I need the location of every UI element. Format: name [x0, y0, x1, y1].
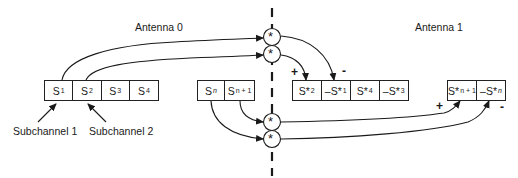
combiner-icon: * [268, 46, 273, 61]
subchannel1-pointer [38, 104, 56, 122]
combiner-icon: * [268, 131, 273, 146]
symbol-cell: S4 [130, 81, 158, 100]
symbol-cell: S2 [73, 81, 101, 100]
antenna1-label: Antenna 1 [415, 21, 463, 33]
arrow-s2-to-combiner [86, 55, 263, 80]
symbol-cell: S*2 [293, 81, 322, 100]
symbol-cell: –S*n [477, 81, 505, 100]
symbol-cell: –S*1 [322, 81, 351, 100]
combiner-icon: * [268, 29, 273, 44]
subchannel1-label: Subchannel 1 [13, 125, 77, 137]
combiner-icon: * [268, 114, 273, 129]
antenna1-block-sn: S*n + 1 –S*n [447, 80, 506, 101]
symbol-cell: S1 [45, 81, 73, 100]
minus-sign: - [500, 100, 504, 114]
arrow-combiner-to-neg-sn [281, 101, 489, 139]
arrow-combiner-to-sn1conj [281, 101, 460, 122]
antenna0-block-s1-s4: S1 S2 S3 S4 [44, 80, 159, 101]
minus-sign: - [342, 64, 346, 78]
plus-sign: + [436, 99, 443, 113]
symbol-cell: –S*3 [380, 81, 408, 100]
symbol-cell: Sn [198, 81, 225, 100]
antenna0-label: Antenna 0 [135, 21, 183, 33]
symbol-cell: S3 [102, 81, 130, 100]
subchannel2-label: Subchannel 2 [89, 125, 153, 137]
antenna1-block-s1-s4: S*2 –S*1 S*4 –S*3 [292, 80, 409, 101]
arrow-combiner-to-neg-s1 [281, 36, 334, 80]
subchannel2-pointer [88, 104, 106, 122]
symbol-cell: S*4 [351, 81, 380, 100]
symbol-cell: Sn + 1 [225, 81, 254, 100]
plus-sign: + [291, 65, 298, 79]
arrow-sn1-to-combiner [240, 101, 263, 122]
antenna0-block-sn: Sn Sn + 1 [197, 80, 255, 101]
symbol-cell: S*n + 1 [448, 81, 477, 100]
